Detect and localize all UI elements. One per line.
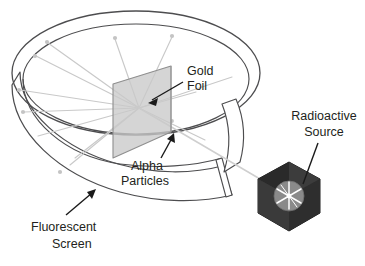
fluorescent-screen-label-line2: Screen — [52, 237, 92, 251]
gold-foil-sheet — [113, 66, 171, 158]
impact-dot — [58, 170, 62, 174]
impact-dot — [17, 88, 21, 92]
impact-dot — [170, 34, 174, 38]
impact-dot — [45, 40, 49, 44]
alpha-particles-arrowhead — [167, 133, 175, 143]
label-fluorescent-screen: Fluorescent Screen — [31, 189, 97, 251]
source-starburst-core — [287, 194, 292, 199]
fluorescent-screen-label-line1: Fluorescent — [31, 220, 97, 234]
gold-foil-label-line2: Foil — [187, 79, 207, 93]
ring-gap-far-wall — [222, 99, 243, 172]
impact-dot — [113, 36, 117, 40]
impact-dot — [33, 54, 37, 58]
impact-dot — [21, 110, 25, 114]
radioactive-source-label-line1: Radioactive — [291, 109, 356, 123]
alpha-particles-arrow-shaft — [161, 138, 172, 158]
fluorescent-screen-arrow-shaft — [66, 193, 92, 215]
radioactive-source — [258, 162, 320, 231]
alpha-particles-label-line2: Particles — [121, 174, 169, 188]
gold-foil-label-line1: Gold — [187, 64, 213, 78]
radioactive-source-label-line2: Source — [304, 125, 344, 139]
gold-foil — [113, 66, 171, 158]
diagram-canvas: Gold Foil Alpha Particles Fluorescent Sc… — [0, 0, 365, 266]
alpha-particles-label-line1: Alpha — [131, 159, 163, 173]
fluorescent-screen-arrowhead — [87, 189, 96, 199]
